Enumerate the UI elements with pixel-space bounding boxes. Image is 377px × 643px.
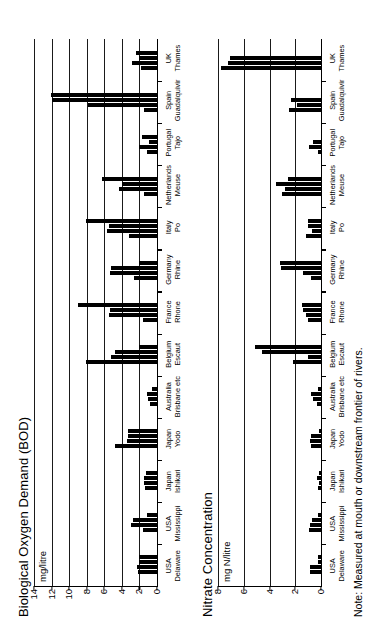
category-label: Italy Po <box>328 206 346 248</box>
bar-group <box>34 460 157 502</box>
bar <box>310 565 321 569</box>
bar <box>311 392 321 396</box>
bar-group <box>218 165 321 207</box>
bar <box>318 513 321 517</box>
category-separator <box>321 165 326 166</box>
category-separator <box>321 460 326 461</box>
bar <box>221 66 321 70</box>
category-label: Japan Ishikari <box>328 460 346 502</box>
bar-group <box>218 207 321 249</box>
axis-unit-nitrate: mg N/litre <box>221 541 232 582</box>
bar-group <box>218 123 321 165</box>
category-separator <box>321 249 326 250</box>
bar <box>52 98 157 102</box>
bar-group <box>34 39 157 81</box>
y-axis-tick-mark <box>51 586 52 590</box>
bar <box>319 481 321 485</box>
bar <box>137 565 157 569</box>
category-separator <box>157 123 162 124</box>
bar <box>311 444 321 448</box>
bar <box>139 555 157 559</box>
bar <box>312 229 321 233</box>
bar <box>308 224 321 228</box>
category-separator <box>321 544 326 545</box>
bar <box>143 318 157 322</box>
bar <box>143 528 157 532</box>
bar <box>102 177 157 181</box>
bar <box>115 350 157 354</box>
bar <box>141 66 157 70</box>
category-separator <box>157 460 162 461</box>
bar <box>139 345 157 349</box>
bar <box>308 355 321 359</box>
category-label: Netherlands Meuse <box>164 164 182 206</box>
category-separator <box>157 502 162 503</box>
bar <box>146 471 157 475</box>
bar <box>311 276 321 280</box>
category-label: Australia Brisbane etc <box>328 375 346 417</box>
bar-group <box>34 502 157 544</box>
bar-groups <box>34 39 157 586</box>
category-separator <box>321 502 326 503</box>
bar <box>282 192 321 196</box>
bar <box>138 570 157 574</box>
category-label: UK Thames <box>328 37 346 79</box>
bar <box>303 308 321 312</box>
category-separator <box>157 81 162 82</box>
category-label: Portugal Tajo <box>328 122 346 164</box>
bar-group <box>218 39 321 81</box>
bar-group <box>34 123 157 165</box>
bar <box>139 560 157 564</box>
chart-bod: Biological Oxygen Demand (BOD) mg/litre … <box>16 37 158 617</box>
bar <box>318 555 321 559</box>
category-label: USA Mississippi <box>164 502 182 544</box>
bar <box>318 486 321 490</box>
bar <box>115 444 157 448</box>
category-separator <box>157 207 162 208</box>
page: Biological Oxygen Demand (BOD) mg/litre … <box>0 0 377 643</box>
category-label: Germany Rhine <box>164 249 182 291</box>
bar <box>297 103 321 107</box>
bar <box>132 61 157 65</box>
bar <box>139 145 157 149</box>
bar <box>144 481 157 485</box>
bar-group <box>34 544 157 586</box>
category-separator <box>321 418 326 419</box>
bar <box>319 429 321 433</box>
bar <box>228 61 321 65</box>
bar <box>230 56 321 60</box>
bar <box>111 266 157 270</box>
category-separator <box>321 291 326 292</box>
bar <box>280 261 321 265</box>
bar-group <box>218 544 321 586</box>
bar <box>131 523 157 527</box>
category-separator <box>321 207 326 208</box>
y-axis-tick-mark <box>121 586 122 590</box>
chart-title-bod: Biological Oxygen Demand (BOD) <box>16 37 31 617</box>
category-labels-nitrate: USA DelawareUSA MississippiJapan Ishikar… <box>328 37 346 587</box>
bar <box>281 266 321 270</box>
bar <box>291 98 321 102</box>
category-label: USA Delaware <box>328 545 346 587</box>
category-labels-bod: USA DelawareUSA MississippiJapan Ishikar… <box>164 37 182 587</box>
bar <box>122 182 157 186</box>
bar <box>109 313 157 317</box>
y-axis-tick-label: 12 <box>47 589 57 600</box>
category-label: Belgium Escaut <box>164 333 182 375</box>
bar <box>262 350 321 354</box>
category-separator <box>157 291 162 292</box>
bar <box>317 402 321 406</box>
bar <box>147 150 157 154</box>
bar <box>318 560 321 564</box>
bar <box>139 261 157 265</box>
bar <box>308 219 321 223</box>
plot-area-bod: mg/litre 02468101214 <box>34 39 158 587</box>
y-axis-tick-mark <box>295 586 296 590</box>
bar <box>107 229 157 233</box>
y-axis-tick-mark <box>243 586 244 590</box>
y-axis-tick-mark <box>139 586 140 590</box>
bar <box>129 234 157 238</box>
plot-area-nitrate: mg N/litre 02468 <box>218 39 322 587</box>
rotated-page-canvas: Biological Oxygen Demand (BOD) mg/litre … <box>0 0 377 643</box>
bar <box>152 387 157 391</box>
